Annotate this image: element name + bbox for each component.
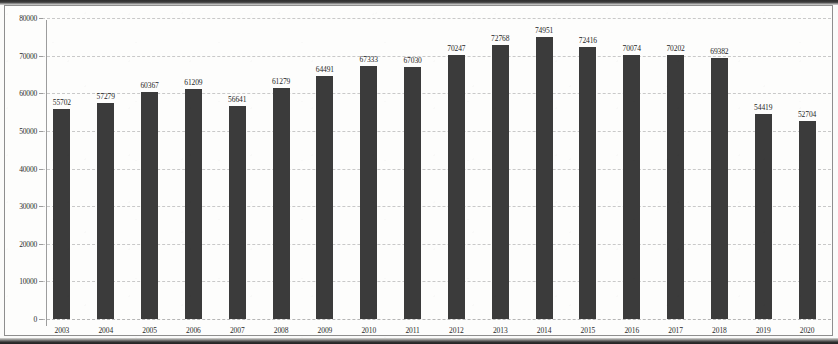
bar-value-label: 61279 [272,77,290,86]
bar-value-label: 55702 [53,98,71,107]
x-axis-tick-label: 2009 [318,326,333,335]
y-axis-tick-mark [39,131,43,132]
bar-value-label: 67333 [360,55,378,64]
bar[interactable] [623,55,640,319]
gridline [42,319,831,320]
bar-value-label: 70247 [447,44,465,53]
bar[interactable] [755,114,772,319]
x-axis-tick-label: 2015 [581,326,596,335]
bar-value-label: 72416 [579,36,597,45]
bar-value-label: 57279 [97,92,115,101]
y-axis-tick-label: 50000 [4,126,37,135]
bar[interactable] [579,47,596,319]
bar[interactable] [273,88,290,319]
bar[interactable] [667,55,684,319]
y-axis-tick-mark [39,56,43,57]
bar-value-label: 52704 [798,110,816,119]
x-axis-tick-label: 2005 [142,326,157,335]
y-axis-tick-mark [39,18,43,19]
bar[interactable] [448,55,465,319]
y-axis-tick-mark [39,281,43,282]
y-axis-tick-mark [39,319,43,320]
bar-value-label: 72768 [491,34,509,43]
y-axis-tick-mark [39,244,43,245]
bar-value-label: 56641 [228,95,246,104]
chart-frame: 0100002000030000400005000060000700008000… [4,5,833,336]
y-axis-tick-label: 0 [4,315,37,324]
scan-edge-bottom [0,338,838,344]
bar[interactable] [53,109,70,319]
y-axis-tick-mark [39,93,43,94]
x-axis-tick-label: 2017 [668,326,683,335]
x-axis-tick-label: 2016 [624,326,639,335]
x-axis-tick-label: 2012 [449,326,464,335]
x-axis-tick-label: 2013 [493,326,508,335]
y-axis-tick-mark [39,169,43,170]
bar[interactable] [316,76,333,319]
gridline [42,18,831,19]
bar[interactable] [229,106,246,319]
y-axis-tick-label: 40000 [4,164,37,173]
bar[interactable] [492,45,509,319]
bar-value-label: 64491 [316,65,334,74]
bar-value-label: 60367 [140,81,158,90]
x-axis-tick-label: 2003 [55,326,70,335]
bar-value-label: 61209 [184,78,202,87]
chart-page: 0100002000030000400005000060000700008000… [0,0,838,344]
bar-value-label: 69382 [710,47,728,56]
y-axis-tick-label: 30000 [4,202,37,211]
x-axis-tick-label: 2010 [361,326,376,335]
bar-value-label: 70074 [623,44,641,53]
y-axis-tick-label: 70000 [4,51,37,60]
bar[interactable] [185,89,202,319]
x-axis-tick-label: 2018 [712,326,727,335]
bar[interactable] [360,66,377,319]
x-axis-tick-label: 2014 [537,326,552,335]
x-axis-tick-label: 2004 [98,326,113,335]
bar[interactable] [799,121,816,319]
y-axis-tick-label: 20000 [4,239,37,248]
bar[interactable] [536,37,553,319]
y-axis-tick-label: 80000 [4,14,37,23]
x-axis-tick-label: 2020 [800,326,815,335]
x-axis-tick-label: 2008 [274,326,289,335]
bar[interactable] [404,67,421,319]
y-axis-tick-label: 60000 [4,89,37,98]
bar-value-label: 74951 [535,26,553,35]
x-axis-tick-label: 2006 [186,326,201,335]
bar-value-label: 54419 [754,103,772,112]
bar-value-label: 70202 [666,44,684,53]
y-axis-tick-mark [39,206,43,207]
bar-value-label: 67030 [403,56,421,65]
x-axis-tick-label: 2007 [230,326,245,335]
y-axis-line [46,20,47,326]
bar[interactable] [711,58,728,319]
x-axis-tick-label: 2011 [405,326,419,335]
x-axis-tick-label: 2019 [756,326,771,335]
y-axis-tick-label: 10000 [4,277,37,286]
bar[interactable] [141,92,158,319]
bar[interactable] [97,103,114,319]
